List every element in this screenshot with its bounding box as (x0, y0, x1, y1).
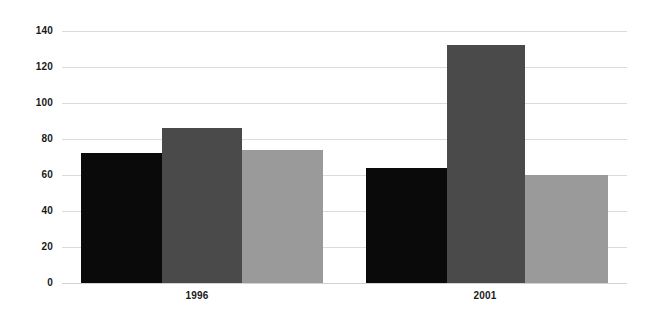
ytick-label-80: 80 (7, 134, 53, 144)
ytick-label-120: 120 (7, 62, 53, 72)
ytick-label-60: 60 (7, 170, 53, 180)
ytick-label-0: 0 (7, 278, 53, 288)
ytick-label-40: 40 (7, 206, 53, 216)
ytick-label-100: 100 (7, 98, 53, 108)
ytick-label-140: 140 (7, 26, 53, 36)
gridline-100 (62, 103, 627, 104)
gridline-140 (62, 31, 627, 32)
gridline-120 (62, 67, 627, 68)
bar-2001-series3[interactable] (525, 175, 608, 283)
bar-2001-series1[interactable] (366, 168, 447, 283)
gridline-baseline-0 (62, 283, 627, 284)
ytick-label-20: 20 (7, 242, 53, 252)
bar-1996-series2[interactable] (162, 128, 242, 283)
xtick-label-2001: 2001 (445, 291, 525, 301)
bar-1996-series1[interactable] (81, 153, 162, 283)
bar-chart: 140 120 100 80 60 40 20 0 1996 2001 (0, 0, 653, 328)
bar-1996-series3[interactable] (242, 150, 323, 283)
gridline-80 (62, 139, 627, 140)
xtick-label-1996: 1996 (157, 291, 237, 301)
bar-2001-series2[interactable] (447, 45, 525, 283)
plot-area: 140 120 100 80 60 40 20 0 1996 2001 (0, 0, 653, 328)
